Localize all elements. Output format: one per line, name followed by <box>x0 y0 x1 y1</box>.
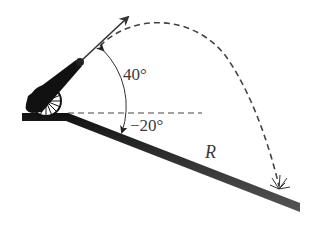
cannon <box>26 58 84 116</box>
range-label: R <box>204 142 216 162</box>
impact-burst <box>270 175 290 189</box>
incline-angle-label: −20° <box>130 116 163 135</box>
velocity-arrow <box>80 17 128 62</box>
angle-arc <box>103 50 126 132</box>
projectile-diagram: 40° −20° R <box>0 0 314 228</box>
diagram-canvas: 40° −20° R <box>0 0 314 228</box>
launch-angle-label: 40° <box>123 65 147 84</box>
cannon-muzzle-knob <box>76 58 84 66</box>
